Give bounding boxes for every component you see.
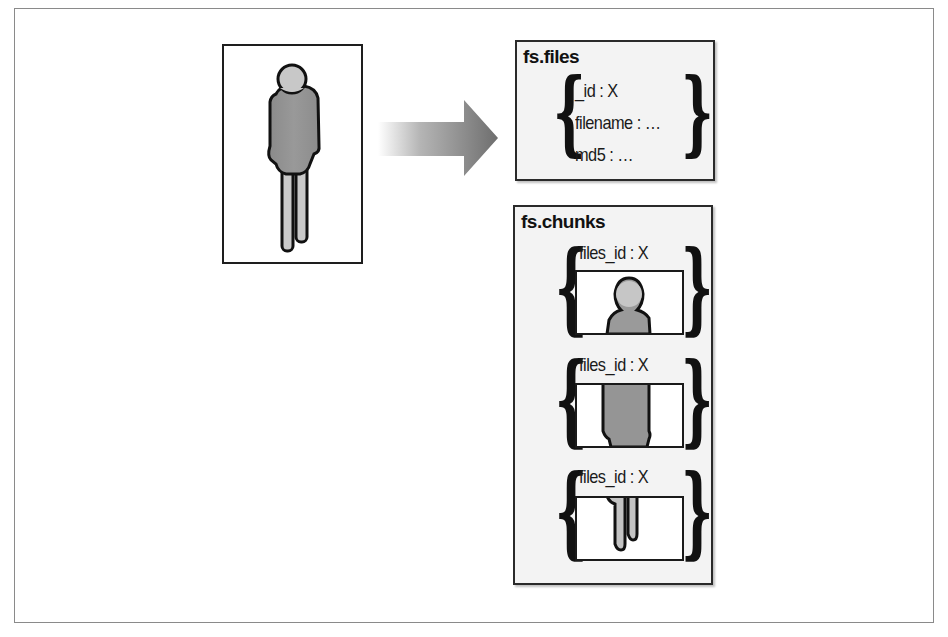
fs-files-collection: fs.files { } _id : X filename : … md5 : … <box>515 40 715 181</box>
chunk-image-body <box>575 383 684 448</box>
chunk-field: files_id : X <box>579 242 648 264</box>
field-md5: md5 : … <box>575 144 633 166</box>
field-id: _id : X <box>575 80 618 102</box>
person-figure-icon <box>224 46 361 262</box>
chunk-image-head <box>575 270 684 335</box>
source-file-box <box>222 44 363 264</box>
right-brace-icon: } <box>681 66 714 158</box>
right-brace-icon: } <box>681 461 713 561</box>
field-filename: filename : … <box>575 112 661 134</box>
arrow-right-icon <box>378 100 500 178</box>
chunk-image-legs <box>575 496 684 561</box>
chunk-field: files_id : X <box>579 466 648 488</box>
fs-chunks-collection: fs.chunks { } files_id : X { } files_id … <box>513 205 713 585</box>
chunk-field: files_id : X <box>579 354 648 376</box>
right-brace-icon: } <box>681 349 713 449</box>
right-brace-icon: } <box>681 237 713 337</box>
